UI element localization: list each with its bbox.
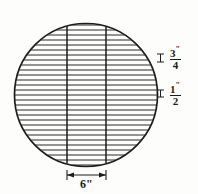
spacing-tick-upper	[157, 54, 164, 62]
inch-mark: "	[176, 81, 180, 90]
arrowhead-right	[99, 173, 106, 178]
fraction-denominator: 4	[170, 60, 181, 71]
fraction-denominator: 2	[170, 96, 181, 107]
fraction-three-quarter: 3" 4	[170, 48, 181, 71]
hatched-circle-diagram	[0, 0, 198, 194]
dimension-label-width: 6"	[80, 178, 93, 190]
dimension-label-one-half: 1" 2	[170, 84, 181, 107]
arrowhead-left	[67, 173, 74, 178]
figure-canvas: 3" 4 1" 2 6"	[0, 0, 198, 194]
dimension-label-three-quarter: 3" 4	[170, 48, 181, 71]
inch-mark: "	[176, 45, 180, 54]
fraction-one-half: 1" 2	[170, 84, 181, 107]
